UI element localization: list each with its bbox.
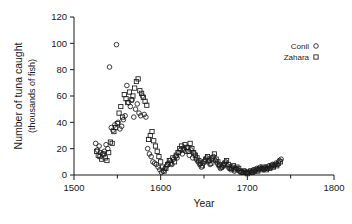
x-axis-title: Year: [193, 197, 215, 209]
series-zahara: [94, 77, 282, 176]
legend-label-conil: Conil: [291, 42, 309, 51]
legend-marker-square-icon: [314, 55, 318, 59]
y-tick-label: 0: [62, 169, 67, 180]
data-point: [152, 139, 156, 143]
legend: ConilZahara: [284, 42, 319, 62]
x-tick-label: 1800: [323, 182, 344, 193]
data-point: [132, 115, 137, 120]
y-tick-label: 80: [56, 64, 67, 75]
chart-figure: 1500160017001800 020406080100120 Year Nu…: [0, 0, 352, 224]
data-point: [107, 65, 112, 70]
y-tick-label: 120: [51, 11, 67, 22]
x-tick-label: 1700: [237, 182, 258, 193]
data-point: [114, 42, 119, 47]
data-point: [153, 144, 157, 148]
data-point: [133, 107, 138, 112]
data-point: [145, 146, 150, 151]
data-point: [159, 160, 163, 164]
data-point: [125, 83, 130, 88]
data-point: [155, 149, 159, 153]
scatter-plot-canvas: 1500160017001800 020406080100120 Year Nu…: [0, 0, 352, 224]
x-tick-labels: 1500160017001800: [63, 175, 344, 193]
legend-marker-circle-icon: [314, 44, 319, 49]
data-points-group: [93, 42, 283, 175]
x-tick-label: 1500: [63, 182, 84, 193]
y-tick-label: 60: [56, 90, 67, 101]
data-point: [123, 113, 128, 118]
data-point: [157, 154, 161, 158]
y-tick-label: 100: [51, 38, 67, 49]
y-tick-label: 20: [56, 143, 67, 154]
x-tick-label: 1600: [150, 182, 171, 193]
data-point: [119, 104, 123, 108]
data-point: [97, 144, 102, 149]
data-point: [133, 86, 137, 90]
data-point: [135, 102, 140, 107]
y-tick-labels: 020406080100120: [51, 11, 74, 180]
y-axis-title-line2: (thousands of fish): [27, 59, 37, 133]
y-axis-title-line1: Number of tuna caught: [12, 43, 24, 150]
y-tick-label: 40: [56, 117, 67, 128]
legend-label-zahara: Zahara: [284, 53, 310, 62]
